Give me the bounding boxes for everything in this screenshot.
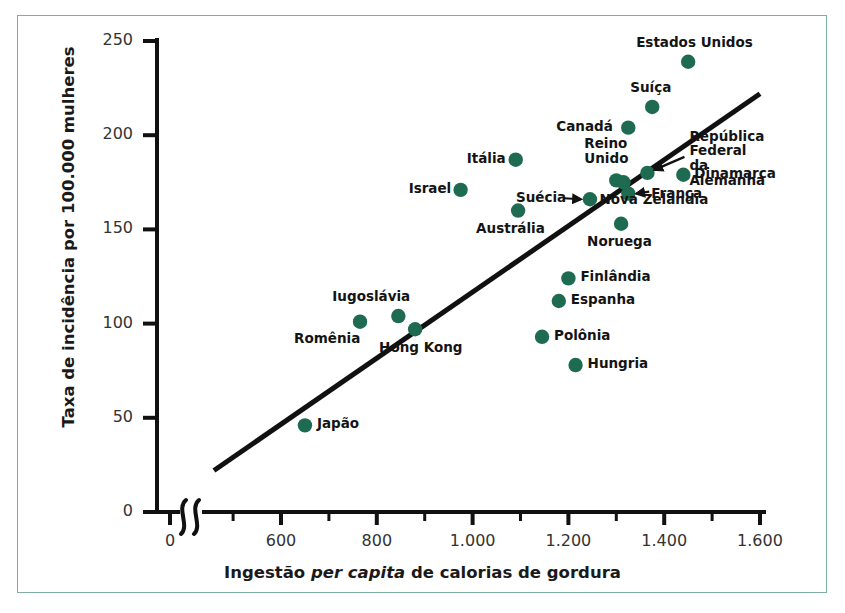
point-label: Itália	[467, 151, 506, 166]
y-tick-label: 150	[73, 218, 133, 237]
data-point	[453, 183, 467, 197]
point-label: Estados Unidos	[636, 35, 753, 50]
data-point	[568, 358, 582, 372]
data-point	[353, 315, 367, 329]
data-point	[616, 175, 630, 189]
data-point	[552, 294, 566, 308]
y-tick-label: 0	[73, 501, 133, 520]
x-tick-label: 1.600	[720, 531, 800, 550]
x-axis-title-after: de calorias de gordura	[405, 563, 621, 582]
point-label: Canadá	[556, 119, 613, 134]
point-label: Nova Zelândia	[599, 192, 708, 207]
point-label: Iugoslávia	[332, 289, 410, 304]
y-axis-title: Taxa de incidência por 100.000 mulheres	[59, 128, 78, 428]
point-label: Suíça	[630, 80, 671, 95]
x-axis-title-italic: per capita	[311, 563, 405, 582]
x-tick-label: 0	[130, 531, 210, 550]
data-point	[535, 330, 549, 344]
x-tick-label: 600	[241, 531, 321, 550]
data-point	[298, 418, 312, 432]
x-tick-label: 1.000	[433, 531, 513, 550]
y-tick-label: 50	[73, 407, 133, 426]
point-label: Espanha	[571, 292, 635, 307]
data-point	[408, 322, 422, 336]
point-label: ReinoUnido	[584, 136, 640, 165]
x-tick-label: 800	[337, 531, 417, 550]
point-label: Noruega	[587, 234, 652, 249]
point-label: Israel	[409, 181, 452, 196]
x-tick-label: 1.400	[624, 531, 704, 550]
data-point	[614, 217, 628, 231]
point-label: Japão	[317, 416, 359, 431]
point-label: Finlândia	[580, 269, 650, 284]
point-label: Suécia	[516, 190, 566, 205]
point-label: Polônia	[554, 328, 610, 343]
scatter-plot	[0, 0, 845, 613]
data-point	[561, 271, 575, 285]
point-label: Austrália	[476, 221, 545, 236]
data-point	[645, 100, 659, 114]
figure-container: 050100150200250 06008001.0001.2001.4001.…	[0, 0, 845, 613]
point-label: Romênia	[294, 331, 360, 346]
data-point	[640, 166, 654, 180]
data-point	[681, 55, 695, 69]
y-tick-label: 100	[73, 313, 133, 332]
data-point	[583, 192, 597, 206]
point-label: Hungria	[588, 356, 649, 371]
data-point	[511, 203, 525, 217]
x-axis-title: Ingestão per capita de calorias de gordu…	[0, 563, 845, 582]
data-point	[391, 309, 405, 323]
y-tick-label: 250	[73, 30, 133, 49]
data-point	[676, 168, 690, 182]
point-label: Hong Kong	[379, 340, 462, 355]
x-axis-title-before: Ingestão	[224, 563, 311, 582]
axes-group	[143, 38, 766, 534]
y-tick-label: 200	[73, 124, 133, 143]
x-tick-label: 1.200	[528, 531, 608, 550]
data-point	[509, 152, 523, 166]
data-point	[621, 120, 635, 134]
point-label: Dinamarca	[694, 166, 776, 181]
